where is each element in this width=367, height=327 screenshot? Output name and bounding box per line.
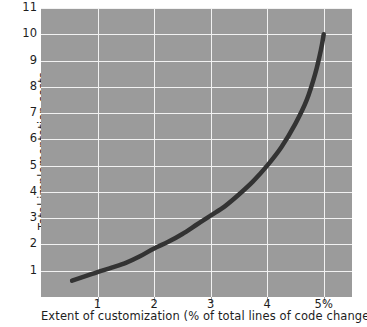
y-axis-tick-labels: 1234567891011 — [0, 0, 37, 327]
y-tick-label: 3 — [3, 212, 37, 224]
y-tick-label: 11 — [3, 2, 37, 14]
plot-area — [41, 8, 352, 297]
y-tick-label: 5 — [3, 160, 37, 172]
y-tick-label: 1 — [3, 265, 37, 277]
x-axis-title: Extent of customization (% of total line… — [41, 309, 353, 323]
y-tick-label: 4 — [3, 186, 37, 198]
chart-figure: Total implementation costs 1234567891011… — [0, 0, 367, 327]
y-tick-label: 10 — [3, 28, 37, 40]
y-tick-label: 8 — [3, 81, 37, 93]
curve-layer — [41, 8, 352, 297]
y-tick-label: 7 — [3, 107, 37, 119]
y-tick-label: 9 — [3, 55, 37, 67]
y-tick-label: 2 — [3, 238, 37, 250]
y-tick-label: 6 — [3, 133, 37, 145]
cost-curve-line — [72, 34, 324, 280]
